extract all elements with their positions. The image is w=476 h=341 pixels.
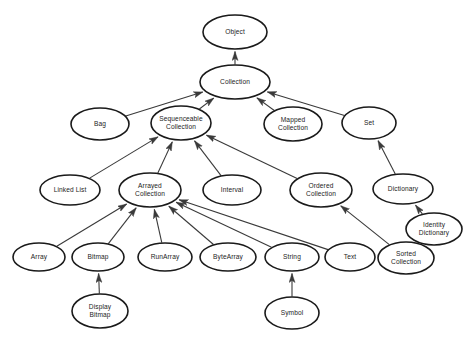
inheritance-edge: Ordered Collection inherits Sequenceable… xyxy=(207,135,298,178)
node-label-arrayedcollection: ArrayedCollection xyxy=(135,182,165,197)
node-displaybitmap[interactable]: DisplayBitmap xyxy=(72,294,128,328)
inheritance-edge: Sorted Collection inherits Ordered Colle… xyxy=(341,206,389,245)
node-sequenceable[interactable]: SequenceableCollection xyxy=(151,106,211,140)
node-label-mapped: MappedCollection xyxy=(278,116,308,131)
inheritance-edge: Dictionary inherits Set xyxy=(378,141,395,174)
node-label-set: Set xyxy=(364,119,374,126)
node-arrayedcollection[interactable]: ArrayedCollection xyxy=(119,173,181,207)
node-mapped[interactable]: MappedCollection xyxy=(264,107,322,141)
node-label-orderedcollection: OrderedCollection xyxy=(306,182,336,197)
node-string[interactable]: String xyxy=(265,243,319,271)
inheritance-edge: Sequenceable Collection inherits Collect… xyxy=(199,98,213,109)
node-set[interactable]: Set xyxy=(342,107,396,139)
node-label-symbol: Symbol xyxy=(281,309,304,317)
node-label-text: Text xyxy=(344,253,357,260)
node-orderedcollection[interactable]: OrderedCollection xyxy=(290,173,352,207)
node-bytearray[interactable]: ByteArray xyxy=(200,243,256,271)
inheritance-edge: Display Bitmap inherits Bitmap xyxy=(99,274,100,294)
node-label-dictionary: Dictionary xyxy=(388,185,419,193)
node-dictionary[interactable]: Dictionary xyxy=(373,174,433,204)
node-label-collection: Collection xyxy=(220,78,250,85)
inheritance-edge: RunArray inherits Arrayed Collection xyxy=(154,209,161,242)
node-label-array: Array xyxy=(31,253,48,261)
node-collection[interactable]: Collection xyxy=(200,65,270,99)
node-bitmap[interactable]: Bitmap xyxy=(72,243,124,271)
node-text[interactable]: Text xyxy=(325,243,375,271)
inheritance-edge: Mapped Collection inherits Collection xyxy=(257,98,274,111)
inheritance-edge: Text inherits Arrayed Collection xyxy=(179,200,328,250)
class-hierarchy-diagram: Collection inherits ObjectBag inherits C… xyxy=(0,0,476,341)
node-label-linkedlist: Linked List xyxy=(54,186,87,193)
node-object[interactable]: Object xyxy=(203,15,267,49)
node-array[interactable]: Array xyxy=(13,243,65,271)
node-label-bitmap: Bitmap xyxy=(87,253,108,261)
node-bag[interactable]: Bag xyxy=(71,108,129,140)
node-linkedlist[interactable]: Linked List xyxy=(40,175,100,205)
diagram-canvas: Collection inherits ObjectBag inherits C… xyxy=(0,0,476,341)
inheritance-edge: Identity Dictionary inherits Dictionary xyxy=(416,205,423,214)
node-label-string: String xyxy=(283,253,301,261)
node-interval[interactable]: Interval xyxy=(203,175,261,205)
inheritance-edge: Interval inherits Sequenceable Collectio… xyxy=(195,141,221,176)
node-runarray[interactable]: RunArray xyxy=(138,243,192,271)
inheritance-edge: Arrayed Collection inherits Sequenceable… xyxy=(158,142,172,173)
inheritance-edge: ByteArray inherits Arrayed Collection xyxy=(169,206,214,244)
node-label-displaybitmap: DisplayBitmap xyxy=(89,303,112,319)
node-symbol[interactable]: Symbol xyxy=(265,297,319,329)
node-label-bytearray: ByteArray xyxy=(213,253,243,261)
inheritance-edge: Linked List inherits Sequenceable Collec… xyxy=(90,137,158,178)
node-label-interval: Interval xyxy=(221,186,244,193)
node-sortedcollection[interactable]: SortedCollection xyxy=(378,242,434,274)
node-label-runarray: RunArray xyxy=(151,253,180,261)
inheritance-edge: Array inherits Arrayed Collection xyxy=(57,204,127,246)
node-label-bag: Bag xyxy=(94,120,106,128)
node-identitydictionary[interactable]: IdentityDictionary xyxy=(406,213,462,245)
node-label-object: Object xyxy=(225,28,245,36)
